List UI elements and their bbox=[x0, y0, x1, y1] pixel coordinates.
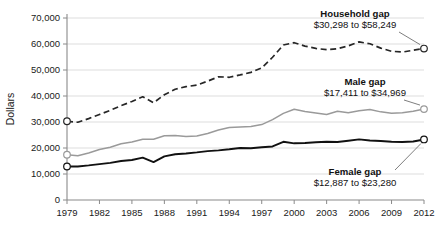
annotation-leader-lines bbox=[395, 32, 421, 170]
endpoint-marker bbox=[64, 151, 71, 158]
x-tick-label: 1997 bbox=[251, 207, 272, 218]
x-axis-ticks: 1979198219851988199119941997200020032006… bbox=[56, 200, 434, 218]
x-tick-label: 2006 bbox=[349, 207, 370, 218]
line-chart: 010,00020,00030,00040,00050,00060,00070,… bbox=[0, 0, 438, 244]
x-tick-label: 2012 bbox=[413, 207, 434, 218]
y-tick-label: 50,000 bbox=[31, 64, 60, 75]
y-axis-ticks: 010,00020,00030,00040,00050,00060,00070,… bbox=[31, 12, 67, 205]
annotation-household-title: Household gap bbox=[275, 8, 435, 19]
annotation-household-value: $30,298 to $58,249 bbox=[275, 19, 435, 30]
y-tick-label: 20,000 bbox=[31, 142, 60, 153]
y-tick-label: 10,000 bbox=[31, 168, 60, 179]
annotation-male-gap: Male gap $17,411 to $34,969 bbox=[285, 76, 438, 99]
y-tick-label: 60,000 bbox=[31, 38, 60, 49]
chart-canvas: 010,00020,00030,00040,00050,00060,00070,… bbox=[0, 0, 438, 244]
y-tick-label: 70,000 bbox=[31, 12, 60, 23]
x-tick-label: 1982 bbox=[89, 207, 110, 218]
leader-line bbox=[399, 32, 420, 45]
endpoint-marker bbox=[421, 45, 428, 52]
x-tick-label: 1994 bbox=[219, 207, 240, 218]
endpoint-marker bbox=[64, 118, 71, 125]
y-tick-label: 40,000 bbox=[31, 90, 60, 101]
annotation-female-title: Female gap bbox=[275, 166, 435, 177]
x-tick-label: 1988 bbox=[154, 207, 175, 218]
endpoint-marker bbox=[421, 106, 428, 113]
annotation-household-gap: Household gap $30,298 to $58,249 bbox=[275, 8, 435, 31]
y-axis-label: Dollars bbox=[4, 93, 16, 126]
x-tick-label: 2009 bbox=[381, 207, 402, 218]
x-tick-label: 1991 bbox=[186, 207, 207, 218]
annotation-male-title: Male gap bbox=[285, 76, 438, 87]
leader-line bbox=[404, 100, 420, 105]
x-tick-label: 2000 bbox=[284, 207, 305, 218]
endpoint-marker bbox=[421, 136, 428, 143]
annotation-male-value: $17,411 to $34,969 bbox=[285, 87, 438, 98]
x-tick-label: 1979 bbox=[56, 207, 77, 218]
annotation-female-value: $12,887 to $23,280 bbox=[275, 177, 435, 188]
endpoint-marker bbox=[64, 163, 71, 170]
annotation-female-gap: Female gap $12,887 to $23,280 bbox=[275, 166, 435, 189]
y-tick-label: 0 bbox=[55, 194, 60, 205]
x-tick-label: 1985 bbox=[121, 207, 142, 218]
x-tick-label: 2003 bbox=[316, 207, 337, 218]
y-tick-label: 30,000 bbox=[31, 116, 60, 127]
